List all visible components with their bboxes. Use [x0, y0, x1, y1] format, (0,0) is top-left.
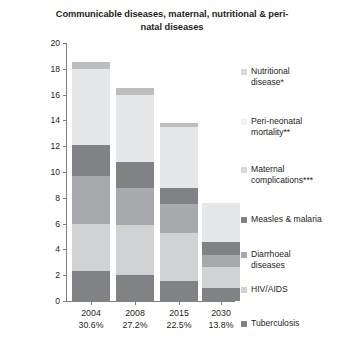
legend-label-continued: complications***	[251, 175, 313, 186]
stacked-bar-chart: Communicable diseases, maternal, nutriti…	[0, 0, 353, 356]
y-tick-mark	[63, 249, 67, 250]
bar-segment	[72, 271, 110, 301]
bar-segment	[116, 188, 154, 225]
bar-segment	[72, 176, 110, 224]
y-tick-label: 18	[14, 64, 60, 74]
bar-segment	[116, 95, 154, 162]
bar-segment	[116, 275, 154, 301]
bar-segment	[160, 281, 198, 301]
y-tick-mark	[63, 69, 67, 70]
legend-item[interactable]: Tuberculosis	[241, 318, 353, 329]
y-tick-label: 8	[14, 193, 60, 203]
y-tick-label: 14	[14, 115, 60, 125]
bar-segment	[72, 224, 110, 271]
y-tick-mark	[63, 301, 67, 302]
legend-label-block: Tuberculosis	[251, 318, 299, 329]
x-tick-mark	[91, 301, 92, 305]
bar-segment	[202, 242, 240, 254]
legend-label-block: Maternalcomplications***	[251, 164, 313, 186]
bar-segment	[72, 145, 110, 176]
legend-label-continued: disease*	[251, 77, 290, 88]
legend-item[interactable]: Measles & malaria	[241, 214, 353, 225]
bar-segment	[160, 204, 198, 232]
legend-item[interactable]: Diarrhoealdiseases	[241, 249, 353, 271]
chart-title: Communicable diseases, maternal, nutriti…	[47, 8, 297, 33]
legend-label: Measles & malaria	[251, 214, 322, 225]
y-tick-label: 16	[14, 90, 60, 100]
legend-label-continued: mortality**	[251, 127, 302, 138]
legend-swatch-icon	[241, 287, 247, 293]
legend-item[interactable]: Nutritionaldisease*	[241, 66, 353, 88]
legend-label-block: Diarrhoealdiseases	[251, 249, 291, 271]
legend-swatch-icon	[241, 119, 247, 125]
y-tick-label: 12	[14, 141, 60, 151]
legend-swatch-icon	[241, 252, 247, 258]
bar-segment	[72, 69, 110, 145]
legend-item[interactable]: Maternalcomplications***	[241, 164, 353, 186]
legend-label: Nutritional	[251, 66, 290, 77]
legend-label-block: HIV/AIDS	[251, 284, 288, 295]
legend-swatch-icon	[241, 217, 247, 223]
bar-segment	[202, 203, 240, 242]
bar-segment	[202, 255, 240, 268]
legend-item[interactable]: Peri-neonatalmortality**	[241, 116, 353, 138]
legend-label: HIV/AIDS	[251, 284, 288, 295]
bar-2015[interactable]	[160, 123, 198, 301]
y-tick-label: 6	[14, 219, 60, 229]
y-tick-mark	[63, 224, 67, 225]
bar-2030[interactable]	[202, 203, 240, 301]
legend-swatch-icon	[241, 69, 247, 75]
legend-label-continued: diseases	[251, 260, 291, 271]
y-tick-label: 0	[14, 296, 60, 306]
legend-label: Diarrhoeal	[251, 249, 291, 260]
legend-label-block: Peri-neonatalmortality**	[251, 116, 302, 138]
legend-item[interactable]: HIV/AIDS	[241, 284, 353, 295]
legend-label: Maternal	[251, 164, 313, 175]
y-tick-label: 4	[14, 244, 60, 254]
y-tick-mark	[63, 172, 67, 173]
bar-segment	[160, 233, 198, 281]
bar-segment	[116, 225, 154, 275]
x-tick-mark	[221, 301, 222, 305]
y-tick-mark	[63, 146, 67, 147]
bar-segment	[116, 162, 154, 188]
bar-2008[interactable]	[116, 88, 154, 301]
y-tick-mark	[63, 198, 67, 199]
bar-2004[interactable]	[72, 62, 110, 301]
legend-swatch-icon	[241, 167, 247, 173]
legend-label: Peri-neonatal	[251, 116, 302, 127]
legend-label-block: Nutritionaldisease*	[251, 66, 290, 88]
x-tick-mark	[179, 301, 180, 305]
y-tick-label: 20	[14, 38, 60, 48]
x-tick-mark	[135, 301, 136, 305]
legend-swatch-icon	[241, 321, 247, 327]
bar-segment	[160, 188, 198, 205]
bar-segment	[160, 127, 198, 188]
bar-segment	[202, 288, 240, 301]
y-tick-mark	[63, 95, 67, 96]
legend-label-block: Measles & malaria	[251, 214, 322, 225]
y-tick-label: 2	[14, 270, 60, 280]
y-tick-mark	[63, 275, 67, 276]
legend-label: Tuberculosis	[251, 318, 299, 329]
bar-segment	[202, 267, 240, 288]
y-tick-mark	[63, 43, 67, 44]
y-tick-label: 10	[14, 167, 60, 177]
y-tick-mark	[63, 120, 67, 121]
